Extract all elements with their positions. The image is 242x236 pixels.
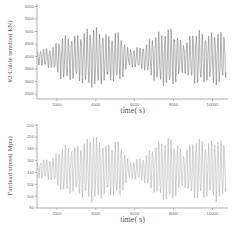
y-axis-title: #2 Cable tension( kN) [6,20,14,83]
y-tick-label: 4000 [25,54,35,59]
x-tick-label: 4000 [91,102,101,107]
y-tick-label: 180 [27,146,35,151]
x-axis-title: time( s) [120,106,145,115]
y-tick-label: 4500 [25,41,35,46]
x-tick-label: 8000 [169,211,179,216]
y-tick-label: 160 [27,158,35,163]
fairlead-stress-plot: 8010012014016018020022020004000600080001… [0,118,242,236]
x-tick-label: 10000 [207,102,219,107]
y-tick-label: 5500 [25,16,35,21]
x-tick-label: 4000 [91,211,101,216]
y-tick-label: 2500 [25,91,35,96]
y-tick-label: 5000 [25,29,35,34]
data-series-line [37,27,226,87]
y-tick-label: 100 [27,194,35,199]
y-tick-label: 6000 [25,4,35,9]
data-series-line [37,137,226,202]
cable-tension-chart: 2500300035004000450050005500600020004000… [0,0,242,118]
y-tick-label: 200 [27,134,35,139]
y-tick-label: 220 [27,123,35,128]
x-tick-label: 2000 [52,102,62,107]
x-tick-label: 8000 [169,102,179,107]
y-axis-title: Fairlead stress( Mpa) [6,136,14,196]
fairlead-stress-chart: 8010012014016018020022020004000600080001… [0,118,242,236]
y-tick-label: 3500 [25,66,35,71]
x-axis-title: time( s) [120,215,145,224]
x-tick-label: 10000 [207,211,219,216]
y-tick-label: 3000 [25,79,35,84]
x-tick-label: 2000 [52,211,62,216]
cable-tension-plot: 2500300035004000450050005500600020004000… [0,0,242,118]
y-tick-label: 80 [29,205,34,210]
y-tick-label: 140 [27,170,35,175]
y-tick-label: 120 [27,182,35,187]
